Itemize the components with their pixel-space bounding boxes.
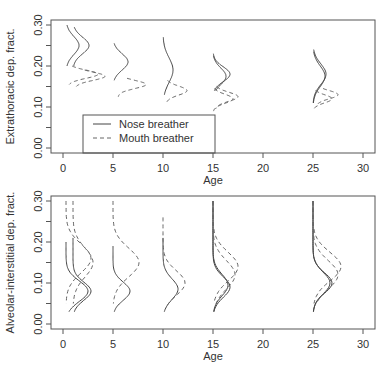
y-tick-label: 0.10 — [32, 96, 44, 117]
nose-breather-curve — [113, 246, 130, 312]
legend-label: Nose breather — [119, 118, 189, 130]
mouth-breather-curve — [69, 66, 98, 84]
mouth-breather-curve — [163, 217, 185, 307]
mouth-breather-curve — [76, 70, 105, 86]
nose-breather-curve — [74, 27, 89, 66]
mouth-breather-curve — [118, 78, 146, 97]
y-tick-label: 0.20 — [32, 231, 44, 252]
plot-frame — [51, 20, 375, 153]
x-tick-label: 25 — [307, 338, 319, 350]
x-tick-label: 5 — [110, 162, 116, 174]
bottom-panel-alveolar: 051015202530Age0.000.100.200.30Alveolar-… — [4, 190, 375, 362]
y-tick-label: 0.20 — [32, 55, 44, 76]
y-tick-label: 0.30 — [32, 190, 44, 211]
x-tick-label: 30 — [357, 162, 369, 174]
x-tick-label: 10 — [157, 162, 169, 174]
x-tick-label: 0 — [60, 162, 66, 174]
top-panel-extrathoracic: 051015202530Age0.000.100.200.30Extrathor… — [4, 14, 375, 186]
x-tick-label: 15 — [207, 338, 219, 350]
nose-breather-curve — [163, 37, 173, 94]
nose-breather-curve — [313, 52, 325, 103]
x-axis-label: Age — [203, 174, 223, 186]
x-tick-label: 25 — [307, 162, 319, 174]
y-tick-label: 0.00 — [32, 137, 44, 158]
x-tick-label: 20 — [257, 162, 269, 174]
chart-figure: 051015202530Age0.000.100.200.30Extrathor… — [0, 0, 389, 375]
nose-breather-curve — [313, 201, 330, 312]
nose-breather-curve — [73, 238, 91, 312]
nose-breather-curve — [213, 54, 230, 91]
mouth-breather-curve — [213, 201, 238, 304]
x-tick-label: 20 — [257, 338, 269, 350]
y-tick-label: 0.30 — [32, 14, 44, 35]
mouth-breather-curve — [167, 80, 188, 103]
legend: Nose breatherMouth breather — [83, 115, 215, 153]
mouth-breather-curve — [313, 201, 341, 304]
y-axis-label: Extrathoracic dep. fract. — [4, 28, 16, 144]
x-tick-label: 30 — [357, 338, 369, 350]
nose-breather-curve — [114, 43, 128, 80]
mouth-breather-curve — [213, 201, 235, 304]
nose-breather-curve — [163, 238, 178, 312]
x-tick-label: 5 — [110, 338, 116, 350]
mouth-breather-curve — [113, 201, 139, 304]
x-axis-label: Age — [203, 350, 223, 362]
mouth-breather-curve — [316, 89, 338, 108]
y-axis-label: Alveolar-interstitial dep. fract. — [4, 192, 16, 334]
nose-breather-curve — [214, 56, 226, 91]
y-tick-label: 0.10 — [32, 272, 44, 293]
x-tick-label: 10 — [157, 338, 169, 350]
mouth-breather-curve — [313, 201, 338, 304]
mouth-breather-curve — [214, 89, 234, 112]
y-tick-label: 0.00 — [32, 313, 44, 334]
legend-label: Mouth breather — [119, 132, 194, 144]
x-tick-label: 15 — [207, 162, 219, 174]
x-tick-label: 0 — [60, 338, 66, 350]
mouth-breather-curve — [314, 91, 332, 109]
nose-breather-curve — [67, 25, 79, 66]
